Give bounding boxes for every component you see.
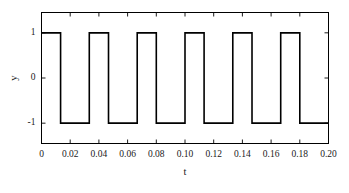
x-tick-label: 0.10 [177,150,194,160]
x-tick-label: 0.20 [320,150,337,160]
x-axis-title: t [184,167,187,178]
x-tick-label: 0.14 [234,150,251,160]
x-tick-label: 0.16 [263,150,280,160]
x-tick-label: 0.06 [119,150,136,160]
plot-area [0,0,349,193]
x-tick-label: 0.18 [291,150,308,160]
x-tick-label: 0.08 [148,150,165,160]
x-tick-label: 0.12 [205,150,222,160]
y-axis-title: y [9,75,20,80]
x-tick-label: 0.04 [91,150,108,160]
x-tick-label: 0 [39,150,44,160]
y-tick-label: 1 [16,28,36,38]
y-tick-label: -1 [16,118,36,128]
figure-canvas: 00.020.040.060.080.100.120.140.160.180.2… [0,0,349,193]
square-wave-line [42,33,329,123]
x-tick-label: 0.02 [62,150,79,160]
